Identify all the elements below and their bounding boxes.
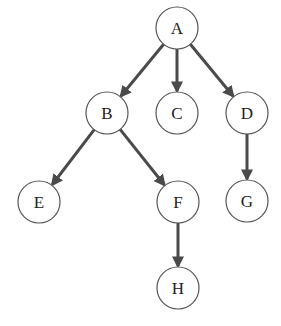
node-a: A <box>156 7 198 49</box>
node-label: B <box>101 104 112 123</box>
node-label: E <box>34 193 44 212</box>
node-label: D <box>241 104 253 123</box>
edge-a-b <box>121 44 164 96</box>
node-h: H <box>157 267 199 309</box>
edge-b-f <box>120 129 164 184</box>
edge-a-d <box>190 44 233 96</box>
node-g: G <box>226 180 268 222</box>
node-c: C <box>156 92 198 134</box>
node-b: B <box>86 92 128 134</box>
node-label: A <box>171 19 184 38</box>
edges <box>52 44 247 266</box>
node-label: H <box>172 279 184 298</box>
node-f: F <box>157 181 199 223</box>
edge-b-e <box>52 130 94 185</box>
node-label: G <box>241 192 253 211</box>
tree-diagram: ABCDEFGH <box>0 0 281 326</box>
node-e: E <box>18 181 60 223</box>
node-label: F <box>173 193 182 212</box>
node-label: C <box>171 104 182 123</box>
node-d: D <box>226 92 268 134</box>
